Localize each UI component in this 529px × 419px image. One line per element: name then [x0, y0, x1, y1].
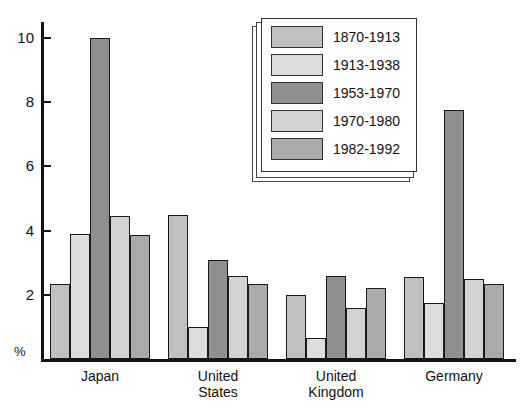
- bar: [228, 276, 248, 359]
- legend-swatch: [271, 82, 323, 104]
- legend-item: 1953-1970: [271, 82, 411, 106]
- bar: [208, 260, 228, 359]
- bar: [346, 308, 366, 359]
- bar: [326, 276, 346, 359]
- bar: [90, 38, 110, 359]
- bar: [404, 277, 424, 359]
- legend-label: 1913-1938: [333, 56, 400, 75]
- bar: [70, 234, 90, 359]
- bar: [50, 284, 70, 359]
- bar-group: [50, 22, 150, 359]
- legend-label: 1982-1992: [333, 140, 400, 159]
- bar: [444, 110, 464, 359]
- bar: [248, 284, 268, 359]
- legend-swatch: [271, 26, 323, 48]
- bar: [110, 216, 130, 359]
- y-axis-tick-label: 4: [8, 223, 34, 238]
- legend-item: 1913-1938: [271, 54, 411, 78]
- bar: [306, 338, 326, 359]
- category-label-line: Kingdom: [266, 384, 406, 400]
- bar: [484, 284, 504, 359]
- x-axis-line: [41, 359, 516, 362]
- category-label-line: Germany: [384, 368, 524, 384]
- bar: [464, 279, 484, 359]
- y-axis-unit-label: %: [14, 345, 26, 358]
- bar: [130, 235, 150, 359]
- legend-item: 1870-1913: [271, 26, 411, 50]
- y-axis-tick-label: 6: [8, 158, 34, 173]
- legend-swatch: [271, 110, 323, 132]
- y-axis-tick-label: 2: [8, 287, 34, 302]
- legend-label: 1953-1970: [333, 84, 400, 103]
- bar: [168, 215, 188, 359]
- legend-label: 1970-1980: [333, 112, 400, 131]
- legend-swatch: [271, 54, 323, 76]
- legend: 1870-19131913-19381953-19701970-19801982…: [252, 18, 420, 182]
- y-axis-tick-label: 10: [8, 30, 34, 45]
- bar: [188, 327, 208, 359]
- legend-box: 1870-19131913-19381953-19701970-19801982…: [261, 18, 417, 172]
- x-axis-category-label: Germany: [384, 368, 524, 384]
- legend-item: 1982-1992: [271, 138, 411, 162]
- bar-chart: 246810 % JapanUnitedStatesUnitedKingdomG…: [0, 0, 529, 419]
- legend-swatch: [271, 138, 323, 160]
- bar: [366, 288, 386, 359]
- bar: [424, 303, 444, 359]
- legend-item: 1970-1980: [271, 110, 411, 134]
- y-axis-tick-label: 8: [8, 94, 34, 109]
- legend-label: 1870-1913: [333, 28, 400, 47]
- bar: [286, 295, 306, 359]
